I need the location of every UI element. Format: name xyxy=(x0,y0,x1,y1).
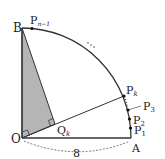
label-pn1: Pn−1 xyxy=(30,14,50,27)
quarter-circle-diagram: B O A 8 Pn−1 Pk P3 P2 P1 Qk xyxy=(0,0,165,159)
p3-leader xyxy=(128,106,141,110)
point-pn1 xyxy=(30,27,33,30)
label-o: O xyxy=(11,132,21,146)
label-qk: Qk xyxy=(57,124,70,138)
label-a: A xyxy=(131,142,141,155)
label-b: B xyxy=(13,21,22,35)
label-8: 8 xyxy=(73,147,80,159)
shaded-triangle-obq xyxy=(22,28,55,138)
ellipsis-dot xyxy=(90,44,91,45)
point-p1 xyxy=(129,126,132,129)
point-p2 xyxy=(128,117,131,120)
diagram-svg: B O A 8 Pn−1 Pk P3 P2 P1 Qk xyxy=(0,0,165,159)
point-p3 xyxy=(126,108,129,111)
label-p3: P3 xyxy=(143,100,155,114)
ellipsis-dot xyxy=(87,42,88,43)
ellipsis-dot xyxy=(93,46,94,47)
label-pk: Pk xyxy=(126,84,138,98)
